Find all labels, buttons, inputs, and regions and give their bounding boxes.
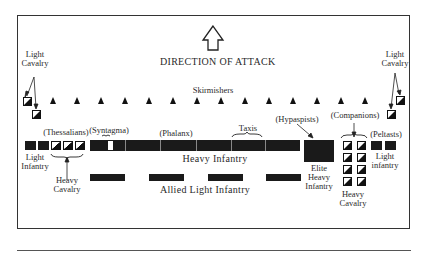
left-light-cavalry-label: Light Cavalry <box>20 50 50 68</box>
skirmisher-icon <box>170 97 176 104</box>
hypaspists-pointer-icon <box>297 124 313 138</box>
phalanx-divider <box>125 140 126 151</box>
right-light-cavalry-label: Light Cavalry <box>380 50 410 68</box>
light-cavalry-unit-icon <box>32 110 41 119</box>
phalanx-divider <box>160 140 161 151</box>
light-cavalry-unit-icon <box>396 96 405 105</box>
skirmisher-icon <box>74 97 80 104</box>
skirmisher-icon <box>338 97 344 104</box>
companion-cavalry-unit-icon <box>357 177 366 186</box>
skirmisher-icon <box>146 97 152 104</box>
allied-light-infantry-label: Allied Light Infantry <box>145 185 265 194</box>
allied-light-infantry-unit <box>266 174 301 181</box>
skirmishers-label: Skirmishers <box>185 86 241 95</box>
peltast-unit <box>385 141 396 150</box>
taxis-label: Taxis <box>236 124 260 133</box>
skirmisher-icon <box>50 97 56 104</box>
companion-cavalry-unit-icon <box>343 141 352 150</box>
syntagma-brace-icon <box>102 135 110 136</box>
heavy-cavalry-unit-icon <box>51 141 61 150</box>
elite-heavy-infantry-label: Elite Heavy Infantry <box>300 164 338 191</box>
companion-cavalry-unit-icon <box>343 177 352 186</box>
peltasts-label: (Peltasts) <box>366 130 406 139</box>
light-cavalry-unit-icon <box>23 97 32 106</box>
skirmisher-icon <box>218 97 224 104</box>
skirmisher-icon <box>290 97 296 104</box>
hypaspists-unit <box>304 140 334 162</box>
skirmisher-icon <box>314 97 320 104</box>
companion-cavalry-unit-icon <box>357 153 366 162</box>
peltast-unit <box>371 141 382 150</box>
syntagma-unit <box>108 141 113 150</box>
skirmisher-icon <box>194 97 200 104</box>
companion-cavalry-unit-icon <box>343 165 352 174</box>
allied-light-infantry-unit <box>208 174 243 181</box>
heavy-cavalry-unit-icon <box>75 141 85 150</box>
phalanx-label: (Phalanx) <box>155 129 197 138</box>
right-heavy-cavalry-label: Heavy Cavalry <box>338 190 368 208</box>
allied-light-infantry-unit <box>149 174 184 181</box>
light-infantry-unit <box>38 141 49 150</box>
companion-cavalry-unit-icon <box>357 165 366 174</box>
left-light-infantry-label: Light Infantry <box>20 153 50 171</box>
skirmisher-icon <box>242 97 248 104</box>
syntagma-label: (Syntagma) <box>88 126 130 135</box>
thessalians-label: (Thessalians) <box>40 128 92 137</box>
heavy-cavalry-unit-icon <box>63 141 73 150</box>
companion-cavalry-unit-icon <box>343 153 352 162</box>
left-heavy-cavalry-label: Heavy Cavalry <box>52 176 82 194</box>
skirmisher-icon <box>266 97 272 104</box>
phalanx-divider <box>231 140 232 151</box>
right-light-infantry-label: Light infantry <box>370 152 400 170</box>
direction-of-attack-label: DIRECTION OF ATTACK <box>160 57 267 66</box>
phalanx-line <box>90 140 300 151</box>
skirmisher-icon <box>122 97 128 104</box>
allied-light-infantry-unit <box>90 174 125 181</box>
heavy-infantry-label: Heavy Infantry <box>170 154 260 163</box>
companions-label: (Companions) <box>327 111 383 120</box>
light-infantry-unit <box>25 141 36 150</box>
skirmisher-icon <box>98 97 104 104</box>
light-cavalry-unit-icon <box>387 110 396 119</box>
skirmisher-icon <box>362 97 368 104</box>
companion-cavalry-unit-icon <box>357 141 366 150</box>
phalanx-divider <box>196 140 197 151</box>
direction-arrow-icon <box>203 26 223 50</box>
phalanx-divider <box>265 140 266 151</box>
hypaspists-label: (Hypaspists) <box>272 115 322 124</box>
